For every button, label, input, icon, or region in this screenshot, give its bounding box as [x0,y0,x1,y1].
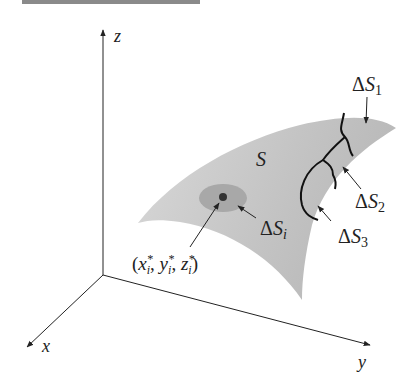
diagram-canvas: z x y S ΔS1 ΔS2 ΔS3 ΔSi (x*i, y*i, z*i) [0,0,410,386]
svg-text:ΔS3: ΔS3 [338,225,368,250]
surface-label: S [256,148,266,170]
svg-text:ΔSi: ΔSi [260,217,287,242]
label-delta-si: ΔSi [260,217,287,242]
y-axis [103,275,370,345]
z-axis-label: z [113,26,121,46]
svg-text:ΔS1: ΔS1 [352,73,382,98]
arrow-s2 [343,167,361,189]
top-bar [22,0,200,4]
arrow-s3 [318,206,331,221]
x-axis-label: x [41,336,50,356]
label-delta-s2: ΔS2 [355,190,385,215]
y-axis-label: y [356,352,366,372]
svg-text:ΔS2: ΔS2 [355,190,385,215]
sample-point [219,193,227,201]
label-delta-s3: ΔS3 [338,225,368,250]
x-axis [27,275,103,347]
label-delta-s1: ΔS1 [352,73,382,98]
surface-integral-diagram: z x y S ΔS1 ΔS2 ΔS3 ΔSi (x*i, y*i, z*i) [0,0,410,386]
svg-text:(x*i, y*i, z*i): (x*i, y*i, z*i) [132,252,198,277]
label-sample-point: (x*i, y*i, z*i) [132,252,198,277]
